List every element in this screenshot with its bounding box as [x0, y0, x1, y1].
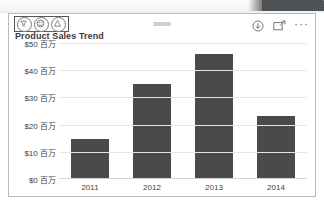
report-page: ··· Product Sales Trend $50 百万$40 百万$30 … [0, 0, 324, 208]
download-icon[interactable] [252, 18, 264, 30]
y-axis-tick-label: $20 百万 [24, 119, 56, 130]
bar-series [59, 43, 307, 179]
y-axis-tick-label: $30 百万 [24, 92, 56, 103]
x-axis: 2011201220132014 [59, 180, 307, 196]
bar[interactable] [257, 116, 295, 179]
bar-slot [59, 43, 121, 179]
bar-slot [245, 43, 307, 179]
x-axis-tick-label: 2012 [121, 180, 183, 196]
focus-face-icon[interactable] [34, 17, 49, 32]
gridline [59, 43, 307, 44]
visual-header-icon-group[interactable] [14, 16, 69, 32]
y-axis: $50 百万$40 百万$30 百万$20 百万$10 百万$0 百万 [15, 43, 59, 179]
gridline [59, 70, 307, 71]
bar-slot [183, 43, 245, 179]
y-axis-tick-label: $50 百万 [24, 38, 56, 49]
chart-plot-area: $50 百万$40 百万$30 百万$20 百万$10 百万$0 百万 2011… [15, 43, 307, 192]
chrome-dark-corner [262, 0, 324, 11]
focus-mode-icon[interactable] [273, 18, 285, 30]
y-axis-tick-label: $0 百万 [29, 174, 56, 185]
bar-slot [121, 43, 183, 179]
bar[interactable] [71, 139, 109, 179]
header-center-placeholder [154, 22, 171, 26]
gridline [59, 97, 307, 98]
x-axis-tick-label: 2014 [245, 180, 307, 196]
bar[interactable] [195, 54, 233, 179]
gridline [59, 152, 307, 153]
y-axis-tick-label: $40 百万 [24, 65, 56, 76]
chart-grid [59, 43, 307, 179]
info-icon[interactable] [51, 17, 66, 32]
window-chrome-strip [0, 0, 324, 13]
gridline [59, 125, 307, 126]
chart-visual-card[interactable]: ··· Product Sales Trend $50 百万$40 百万$30 … [8, 13, 316, 197]
more-options-icon[interactable]: ··· [294, 20, 309, 28]
y-axis-tick-label: $10 百万 [24, 146, 56, 157]
gridline [59, 178, 307, 179]
x-axis-tick-label: 2011 [59, 180, 121, 196]
filter-icon[interactable] [17, 17, 32, 32]
visual-header-actions[interactable]: ··· [252, 18, 309, 30]
x-axis-tick-label: 2013 [183, 180, 245, 196]
